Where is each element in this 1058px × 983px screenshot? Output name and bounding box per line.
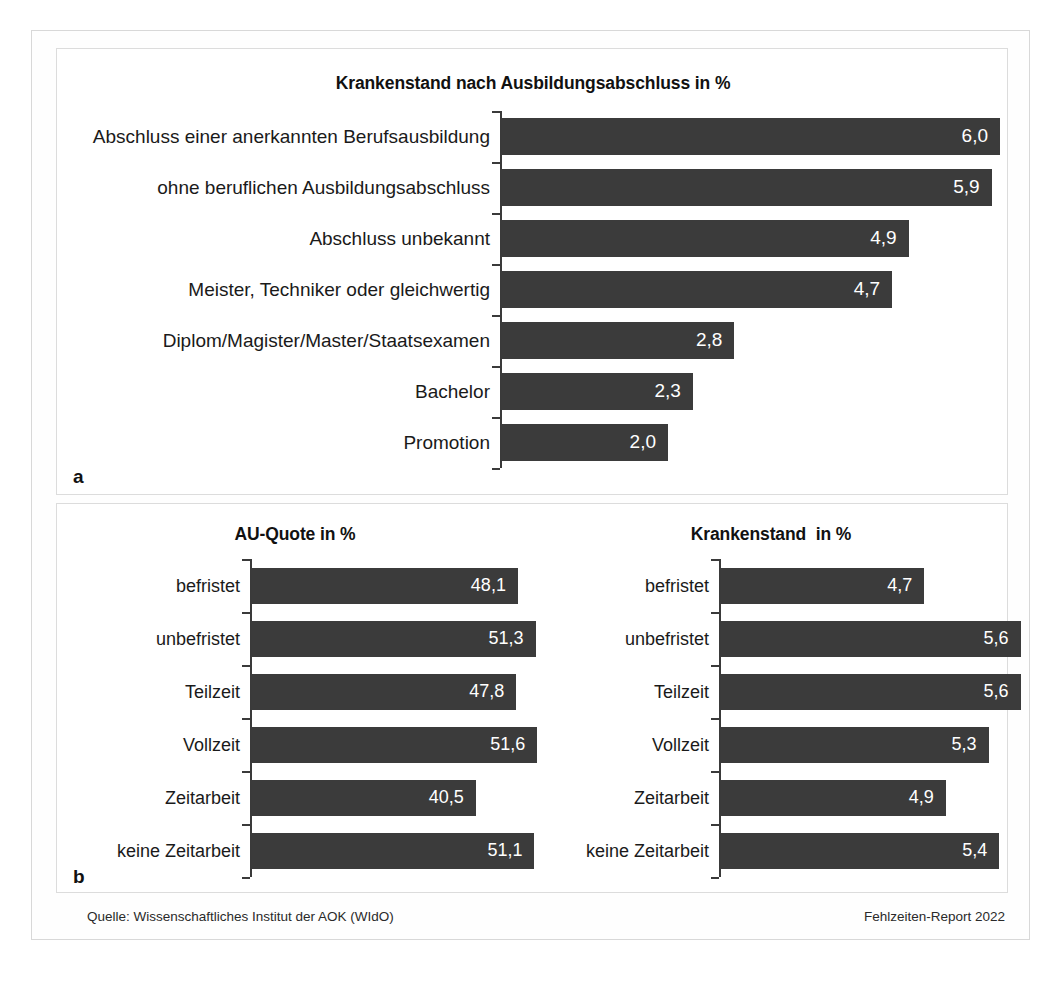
category-label: Diplom/Magister/Master/Staatsexamen [163,327,490,355]
footer-report: Fehlzeiten-Report 2022 [864,909,1005,924]
category-label: Vollzeit [183,732,240,758]
chart-b-right-title: Krankenstand in % [533,524,1009,545]
y-axis-tick [242,771,250,773]
y-axis-tick [242,824,250,826]
y-axis-tick [711,665,719,667]
y-axis-tick [492,213,500,215]
y-axis-tick [242,612,250,614]
panel-b-letter: b [73,866,85,888]
chart-b-left-title: AU-Quote in % [57,524,533,545]
panel-a-letter: a [73,466,84,488]
y-axis-tick [492,315,500,317]
chart-b-left-plot: befristet48,1unbefristet51,3Teilzeit47,8… [57,559,533,877]
figure-page: Krankenstand nach Ausbildungsabschluss i… [0,0,1058,983]
bar-value-label: 4,7 [502,276,880,303]
y-axis-tick [711,559,719,561]
category-label: befristet [176,573,240,599]
category-label: Teilzeit [654,679,709,705]
bar-value-label: 2,3 [502,378,681,405]
bar-value-label: 51,6 [252,732,525,757]
category-label: keine Zeitarbeit [586,838,709,864]
category-label: Abschluss unbekannt [309,225,490,253]
y-axis-tick [492,366,500,368]
category-label: keine Zeitarbeit [117,838,240,864]
y-axis-tick [242,559,250,561]
category-label: ohne beruflichen Ausbildungsabschluss [157,174,490,202]
category-label: Vollzeit [652,732,709,758]
bar-value-label: 4,9 [502,225,897,252]
bar-value-label: 5,6 [721,626,1009,651]
bar-value-label: 5,3 [721,732,977,757]
bar-value-label: 4,9 [721,785,934,810]
y-axis-tick [492,417,500,419]
category-label: Bachelor [415,378,490,406]
y-axis-tick [711,771,719,773]
bar-value-label: 6,0 [502,123,988,150]
category-label: Teilzeit [185,679,240,705]
bar-value-label: 48,1 [252,573,506,598]
panel-a: Krankenstand nach Ausbildungsabschluss i… [56,48,1008,495]
y-axis-tick [492,162,500,164]
panel-b: AU-Quote in % befristet48,1unbefristet51… [56,503,1008,893]
category-label: unbefristet [156,626,240,652]
y-axis-tick [492,111,500,113]
y-axis-line [719,559,721,877]
bar-value-label: 5,4 [721,838,987,863]
figure-outer-frame: Krankenstand nach Ausbildungsabschluss i… [31,30,1030,940]
category-label: unbefristet [625,626,709,652]
chart-a-plot: Abschluss einer anerkannten Berufsausbil… [57,111,1009,468]
bar-value-label: 51,3 [252,626,524,651]
y-axis-tick [492,468,500,470]
y-axis-tick [242,665,250,667]
category-label: Abschluss einer anerkannten Berufsausbil… [93,123,490,151]
chart-b-right-plot: befristet4,7unbefristet5,6Teilzeit5,6Vol… [533,559,1009,877]
y-axis-tick [711,612,719,614]
y-axis-line [250,559,252,877]
bar-value-label: 5,9 [502,174,980,201]
bar-value-label: 2,0 [502,429,656,456]
category-label: Zeitarbeit [634,785,709,811]
y-axis-tick [242,877,250,879]
y-axis-tick [711,824,719,826]
y-axis-tick [711,877,719,879]
category-label: Promotion [403,429,490,457]
bar-value-label: 51,1 [252,838,522,863]
bar-value-label: 47,8 [252,679,504,704]
category-label: befristet [645,573,709,599]
chart-a-title: Krankenstand nach Ausbildungsabschluss i… [57,73,1009,94]
bar-value-label: 2,8 [502,327,722,354]
bar-value-label: 40,5 [252,785,464,810]
y-axis-tick [242,718,250,720]
bar-value-label: 5,6 [721,679,1009,704]
footer-source: Quelle: Wissenschaftliches Institut der … [87,909,394,924]
y-axis-tick [711,718,719,720]
category-label: Meister, Techniker oder gleichwertig [188,276,490,304]
category-label: Zeitarbeit [165,785,240,811]
bar-value-label: 4,7 [721,573,912,598]
y-axis-tick [492,264,500,266]
